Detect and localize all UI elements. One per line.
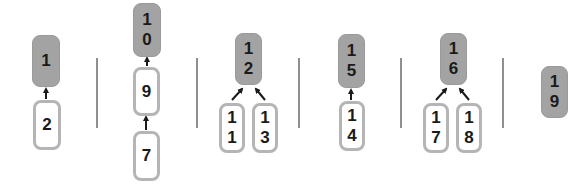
node-label-digit: 1 — [449, 39, 458, 59]
node-label-digit: 1 — [227, 128, 236, 148]
node-label-digit: 6 — [449, 59, 458, 79]
node-label-digit: 1 — [142, 10, 151, 30]
node-label-digit: 9 — [550, 92, 559, 112]
node-label-digit: 1 — [464, 108, 473, 128]
edge-arrows — [0, 0, 585, 188]
root-node: 16 — [440, 33, 467, 85]
child-node: 17 — [423, 103, 449, 153]
root-node: 12 — [235, 33, 262, 85]
edge-arrow-13-to-12 — [256, 89, 265, 100]
node-label-digit: 5 — [347, 61, 356, 81]
root-node: 15 — [338, 34, 365, 88]
node-label-digit: 1 — [244, 39, 253, 59]
node-label: 2 — [42, 115, 51, 135]
node-label-digit: 1 — [347, 41, 356, 61]
root-node: 1 — [32, 35, 60, 87]
edge-arrow-18-to-16 — [460, 89, 469, 100]
node-label-digit: 7 — [431, 128, 440, 148]
edge-arrow-11-to-12 — [232, 89, 242, 100]
node-label-digit: 0 — [142, 30, 151, 50]
node-label-digit: 8 — [464, 128, 473, 148]
node-label: 1 — [41, 51, 50, 71]
node-label-digit: 4 — [347, 126, 356, 146]
child-node: 2 — [33, 100, 61, 150]
union-find-forest-diagram: 1 2 10 9 7 12 11 13 15 14 16 17 18 19 — [0, 0, 585, 188]
node-label-digit: 1 — [260, 108, 269, 128]
child-node: 11 — [219, 103, 245, 153]
root-node: 19 — [541, 66, 568, 118]
node-label-digit: 1 — [431, 108, 440, 128]
node-label-digit: 1 — [227, 108, 236, 128]
child-node: 18 — [456, 103, 482, 153]
node-label-digit: 1 — [347, 106, 356, 126]
node-label-digit: 2 — [244, 59, 253, 79]
edge-arrow-17-to-16 — [436, 89, 446, 100]
node-label: 7 — [142, 146, 151, 166]
node-label-digit: 1 — [550, 72, 559, 92]
child-node: 14 — [339, 101, 365, 151]
child-node: 13 — [252, 103, 278, 153]
node-label: 9 — [142, 82, 151, 102]
child-node: 9 — [133, 67, 160, 116]
child-node: 7 — [133, 131, 160, 181]
node-label-digit: 3 — [260, 128, 269, 148]
root-node: 10 — [133, 3, 161, 57]
